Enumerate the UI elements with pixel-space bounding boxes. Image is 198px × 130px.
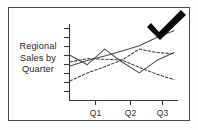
series-line-3 xyxy=(70,49,174,81)
x-tick-label-q3: Q3 xyxy=(157,108,169,118)
caption-line-1: Regional xyxy=(12,41,64,53)
y-axis-ticks xyxy=(64,29,70,92)
x-axis-ticks xyxy=(96,101,163,106)
x-tick-label-q2: Q2 xyxy=(125,108,137,118)
checkmark-icon xyxy=(147,10,186,40)
chart-caption: Regional Sales by Quarter xyxy=(12,41,64,76)
x-tick-label-q1: Q1 xyxy=(90,108,102,118)
clipart-root: Q1 Q2 Q3 Regional Sales by Quarter xyxy=(0,0,198,130)
caption-line-3: Quarter xyxy=(12,64,64,76)
caption-line-2: Sales by xyxy=(12,53,64,65)
